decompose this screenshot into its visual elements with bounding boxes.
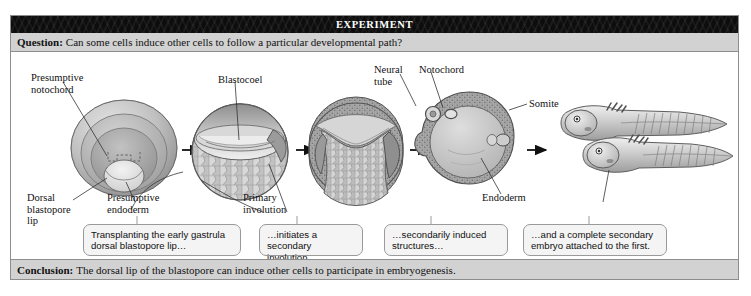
caption-2-line-1: …initiates a secondary <box>267 229 356 252</box>
caption-3: …secondarily induced structures… <box>384 224 508 256</box>
experiment-banner: EXPERIMENT <box>11 16 738 33</box>
label-somite: Somite <box>529 98 559 110</box>
label-primary-involution: Primary involution <box>243 192 286 215</box>
caption-4-line-1: …and a complete secondary <box>531 229 660 240</box>
stage-3-involution <box>309 97 403 206</box>
caption-1-line-1: Transplanting the early gastrula <box>91 229 234 240</box>
label-blastocoel: Blastocoel <box>218 74 262 86</box>
label-endoderm: Endoderm <box>482 192 526 204</box>
stage-5-double-larva <box>561 103 733 172</box>
stage-4-neurula-section <box>415 92 514 184</box>
conclusion-bar: Conclusion: The dorsal lip of the blasto… <box>11 259 738 279</box>
question-text: Can some cells induce other cells to fol… <box>66 36 402 48</box>
caption-1-line-2: dorsal blastopore lip… <box>91 240 234 251</box>
caption-4: …and a complete secondary embryo attache… <box>523 224 667 256</box>
caption-4-line-2: embryo attached to the first. <box>531 240 660 251</box>
label-notochord: Notochord <box>419 64 464 76</box>
caption-1: Transplanting the early gastrula dorsal … <box>83 224 241 256</box>
illustration-stage: Presumptive notochord Dorsal blastopore … <box>11 52 738 261</box>
experiment-figure: EXPERIMENT Question: Can some cells indu… <box>10 15 739 280</box>
label-neural-tube: Neural tube <box>374 64 403 87</box>
caption-3-line-1: …secondarily induced <box>392 229 501 240</box>
stage-2-blastula-section <box>192 96 288 200</box>
caption-2: …initiates a secondary involution… <box>259 224 363 256</box>
label-presumptive-notochord: Presumptive notochord <box>31 72 84 95</box>
banner-title: EXPERIMENT <box>336 19 413 30</box>
stage-1-early-gastrula <box>71 100 177 196</box>
conclusion-text: The dorsal lip of the blastopore can ind… <box>76 264 455 276</box>
label-presumptive-endoderm: Presumptive endoderm <box>107 192 160 215</box>
question-label: Question: <box>17 36 63 48</box>
caption-3-line-2: structures… <box>392 240 501 251</box>
conclusion-label: Conclusion: <box>17 264 73 276</box>
label-dorsal-blastopore-lip: Dorsal blastopore lip <box>27 192 71 227</box>
question-bar: Question: Can some cells induce other ce… <box>11 33 738 52</box>
